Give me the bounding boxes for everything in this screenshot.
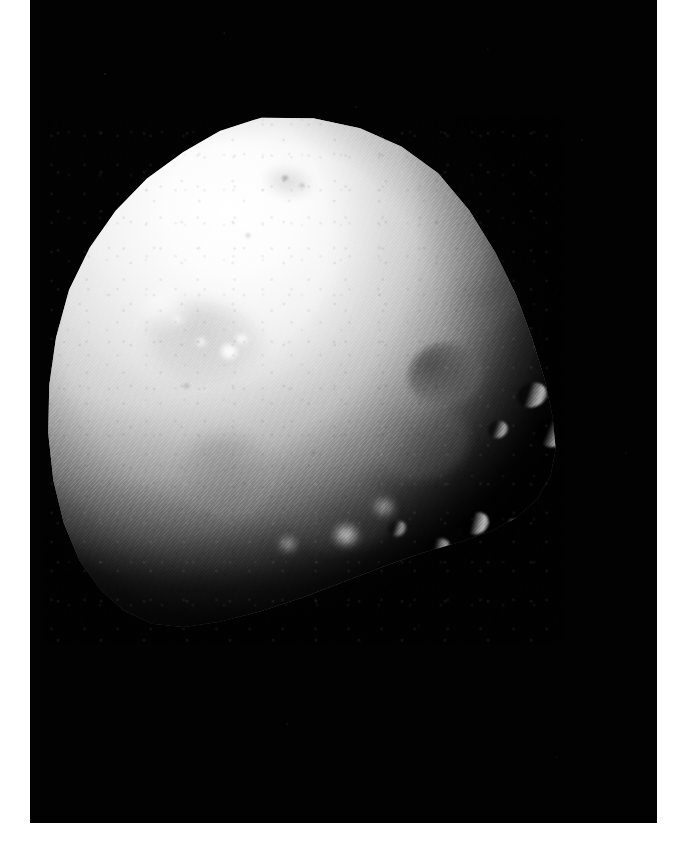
moon-surface	[43, 115, 563, 645]
page-margin-bottom	[0, 823, 673, 854]
photo-frame	[30, 0, 657, 823]
moon-body	[43, 115, 563, 645]
page-margin-right	[657, 0, 673, 854]
page-margin-left	[0, 0, 30, 854]
image-page	[0, 0, 673, 854]
